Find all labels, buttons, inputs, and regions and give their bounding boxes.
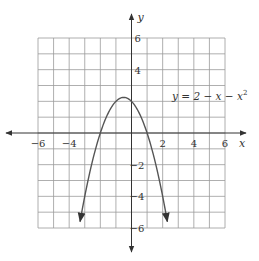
x-tick-label: 6 <box>222 138 228 149</box>
equation-label: y = 2 − x − x2 <box>171 89 247 102</box>
y-tick-label: 4 <box>135 65 141 76</box>
y-axis-label: y <box>137 11 145 24</box>
x-tick-label: −6 <box>31 138 46 149</box>
parabola-curve <box>80 97 167 221</box>
y-tick-label: −2 <box>130 160 145 171</box>
y-tick-label: 6 <box>135 33 141 44</box>
x-axis-label: x <box>239 137 246 150</box>
x-tick-label: 2 <box>159 138 165 149</box>
y-tick-label: −6 <box>130 223 145 234</box>
x-tick-label: 4 <box>191 138 197 149</box>
parabola-graph: −6−424664−2−4−6 y = 2 − x − x2 x y <box>0 0 259 261</box>
axes <box>6 14 246 252</box>
y-tick-label: −4 <box>130 191 145 202</box>
x-tick-label: −4 <box>62 138 77 149</box>
